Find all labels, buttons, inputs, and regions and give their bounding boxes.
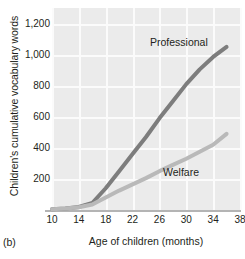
series-line-professional bbox=[52, 47, 227, 209]
series-label-welfare: Welfare bbox=[163, 166, 199, 178]
series-label-professional: Professional bbox=[150, 36, 208, 48]
panel-label: (b) bbox=[3, 236, 16, 248]
x-axis-title: Age of children (months) bbox=[52, 235, 240, 247]
chart-figure: Children's cumulative vocabulary words 2… bbox=[0, 0, 245, 259]
chart-series-lines bbox=[0, 0, 245, 259]
